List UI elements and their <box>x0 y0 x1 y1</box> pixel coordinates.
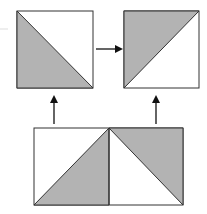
top-right-square <box>124 11 199 88</box>
diagram-canvas <box>0 0 207 214</box>
top-left-square <box>17 11 93 88</box>
bottom-rectangle <box>34 128 183 205</box>
